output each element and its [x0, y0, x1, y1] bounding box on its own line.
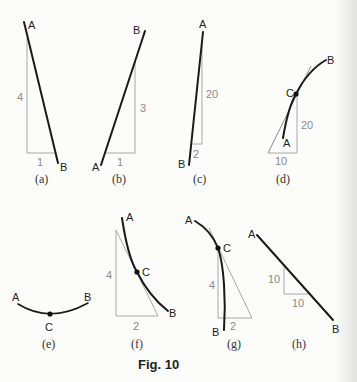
panel-c: A B 20 2 (c): [178, 18, 218, 186]
rise-label: 3: [140, 102, 146, 114]
panel-d: C A B 20 10 (d): [268, 54, 334, 186]
line-ab: [101, 31, 145, 165]
run-label: 2: [230, 320, 236, 332]
point-c-dot: [134, 269, 139, 274]
point-a-label: A: [248, 228, 256, 240]
panel-caption: (c): [193, 172, 206, 186]
point-c-dot: [293, 91, 298, 96]
panel-b: A B 3 1 (b): [92, 24, 146, 186]
rise-label: 20: [301, 119, 313, 131]
point-a-label: A: [12, 291, 20, 303]
panel-caption: (b): [112, 172, 126, 186]
panel-caption: (e): [42, 337, 55, 351]
point-b-label: B: [178, 158, 185, 170]
point-b-label: B: [332, 323, 339, 335]
panel-caption: (a): [35, 172, 48, 186]
run-label: 2: [193, 148, 199, 160]
run-label: 1: [37, 156, 43, 168]
line-ab: [189, 32, 203, 165]
run-label: 2: [133, 320, 139, 332]
run-label: 10: [275, 155, 287, 167]
point-a-label: A: [92, 161, 100, 173]
panel-g: C A B 4 2 (g): [185, 214, 252, 351]
run-label: 10: [292, 297, 304, 309]
point-a-label: A: [28, 19, 36, 31]
panel-caption: (f): [131, 337, 143, 351]
point-b-label: B: [60, 161, 67, 173]
line-ab: [24, 22, 58, 163]
point-b-label: B: [133, 24, 140, 36]
rise-label: 4: [209, 279, 215, 291]
panel-a: A B 4 1 (a): [17, 19, 67, 186]
panel-h: A B 10 10 (h): [248, 228, 339, 351]
panel-e: A B C (e): [12, 291, 91, 351]
point-c-label: C: [45, 321, 53, 333]
curve-ab: [195, 221, 225, 330]
point-b-label: B: [84, 291, 91, 303]
arc-ab: [18, 303, 88, 314]
point-b-label: B: [327, 54, 334, 66]
point-a-label: A: [283, 137, 291, 149]
rise-label: 10: [268, 273, 280, 285]
panel-caption: (g): [227, 337, 241, 351]
panel-f: C A B 4 2 (f): [106, 211, 176, 351]
point-b-label: B: [212, 326, 219, 338]
figure-10-diagram: A B 4 1 (a) A B 3 1 (b) A B 20 2 (c) C A…: [0, 0, 357, 382]
point-a-label: A: [126, 211, 134, 223]
point-a-label: A: [199, 18, 207, 30]
point-c-label: C: [142, 266, 150, 278]
point-b-label: B: [169, 307, 176, 319]
point-a-label: A: [185, 214, 193, 226]
point-c-label: C: [223, 242, 231, 254]
point-c-dot: [47, 311, 52, 316]
rise-label: 4: [17, 91, 23, 103]
curve-ab: [122, 218, 168, 311]
rise-label: 4: [106, 269, 112, 281]
figure-caption: Fig. 10: [138, 357, 179, 372]
rise-label: 20: [206, 88, 218, 100]
panel-caption: (d): [276, 172, 290, 186]
point-c-label: C: [286, 87, 294, 99]
run-label: 1: [117, 156, 123, 168]
panel-caption: (h): [292, 337, 306, 351]
point-c-dot: [215, 245, 220, 250]
